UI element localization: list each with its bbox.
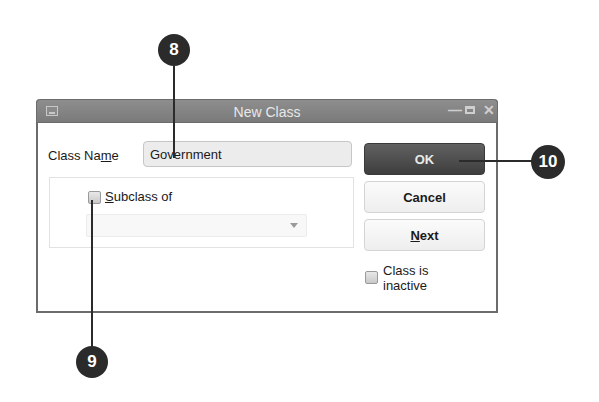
label-text: Class Na xyxy=(48,148,101,163)
new-class-dialog: New Class — ✕ Class Name Subclass of OK … xyxy=(36,99,498,313)
minimize-icon[interactable]: — xyxy=(448,102,462,118)
callout-8-badge: 8 xyxy=(158,34,190,66)
class-name-label: Class Name xyxy=(48,148,119,163)
button-text: ext xyxy=(420,228,439,243)
callout-8-leader xyxy=(173,66,175,158)
callout-9-leader xyxy=(91,200,93,348)
accelerator-key: N xyxy=(410,228,419,243)
class-inactive-checkbox[interactable] xyxy=(365,271,378,284)
subclass-checkbox[interactable] xyxy=(88,191,101,204)
parent-class-dropdown[interactable] xyxy=(86,214,307,237)
subclass-group: Subclass of xyxy=(49,177,354,248)
maximize-icon[interactable] xyxy=(465,106,475,114)
subclass-label[interactable]: Subclass of xyxy=(105,189,172,204)
label-text: ubclass of xyxy=(114,189,173,204)
ok-button[interactable]: OK xyxy=(364,143,485,175)
callout-10-badge: 10 xyxy=(531,145,565,179)
chevron-down-icon[interactable] xyxy=(290,223,298,228)
label-text: e xyxy=(112,148,119,163)
dialog-title: New Class xyxy=(37,104,497,120)
cancel-button[interactable]: Cancel xyxy=(364,181,485,213)
accelerator-key: S xyxy=(105,189,114,204)
close-icon[interactable]: ✕ xyxy=(483,102,495,118)
next-button[interactable]: Next xyxy=(364,219,485,251)
callout-9-badge: 9 xyxy=(76,346,108,378)
accelerator-key: m xyxy=(101,148,112,163)
class-inactive-label[interactable]: Class is inactive xyxy=(383,263,443,293)
title-bar[interactable]: New Class — ✕ xyxy=(36,99,498,123)
callout-10-leader xyxy=(459,160,534,162)
